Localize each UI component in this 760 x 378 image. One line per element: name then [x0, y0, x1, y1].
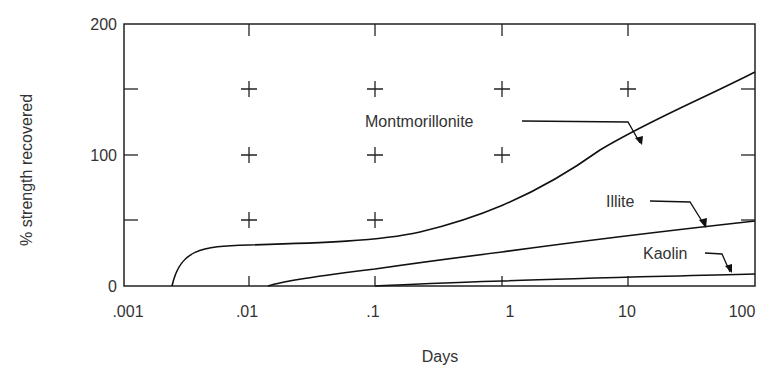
svg-text:.01: .01 [236, 303, 258, 320]
kaolin-line [375, 274, 755, 286]
svg-text:100: 100 [729, 303, 756, 320]
y-axis-title: % strength recovered [18, 94, 35, 246]
svg-text:1: 1 [506, 303, 515, 320]
svg-text:0: 0 [108, 278, 117, 295]
cross-markers [241, 81, 636, 228]
svg-text:10: 10 [618, 303, 636, 320]
label-kaolin: Kaolin [643, 245, 687, 262]
x-tick-labels: .001 .01 .1 1 10 100 [112, 303, 755, 320]
x-axis-title: Days [422, 348, 458, 365]
label-illite: Illite [606, 193, 635, 210]
svg-text:.001: .001 [112, 303, 143, 320]
chart: Montmorillonite Illite Kaolin 0 100 200 … [0, 0, 760, 378]
svg-text:100: 100 [90, 147, 117, 164]
svg-text:200: 200 [90, 16, 117, 33]
label-montmorillonite: Montmorillonite [365, 113, 474, 130]
y-tick-labels: 0 100 200 [90, 16, 117, 295]
svg-text:.1: .1 [366, 303, 379, 320]
